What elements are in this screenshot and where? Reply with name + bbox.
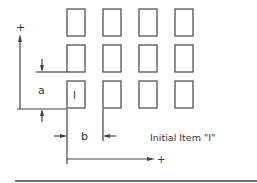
layout-diagram: + a I b + Initial Item "I" <box>0 0 257 183</box>
grid-item-r3c2 <box>103 81 121 108</box>
dimension-a-bottom-arrow-icon <box>40 109 44 116</box>
initial-item <box>67 81 85 108</box>
horizontal-axis-plus-label: + <box>157 154 165 165</box>
grid-item-r3c4 <box>175 81 193 108</box>
dimension-b-right-arrow-icon <box>103 134 110 138</box>
grid-item-r2c3 <box>139 45 157 72</box>
grid-item-r2c2 <box>103 45 121 72</box>
dimension-b-label: b <box>81 130 88 143</box>
caption: Initial Item "I" <box>150 132 216 143</box>
grid-item-r1c3 <box>139 9 157 36</box>
grid-item-r1c4 <box>175 9 193 36</box>
grid-item-r1c1 <box>67 9 85 36</box>
grid-item-r2c1 <box>67 45 85 72</box>
vertical-axis-arrow-icon <box>18 34 22 42</box>
initial-item-label: I <box>73 90 76 101</box>
dimension-a-top-arrow-icon <box>40 65 44 72</box>
item-grid <box>67 9 193 108</box>
dimension-a-label: a <box>38 84 45 97</box>
grid-item-r3c3 <box>139 81 157 108</box>
grid-item-r1c2 <box>103 9 121 36</box>
vertical-axis-plus-label: + <box>16 21 25 34</box>
grid-item-r2c4 <box>175 45 193 72</box>
dimension-b-left-arrow-icon <box>60 134 67 138</box>
horizontal-axis-arrow-icon <box>147 157 155 161</box>
